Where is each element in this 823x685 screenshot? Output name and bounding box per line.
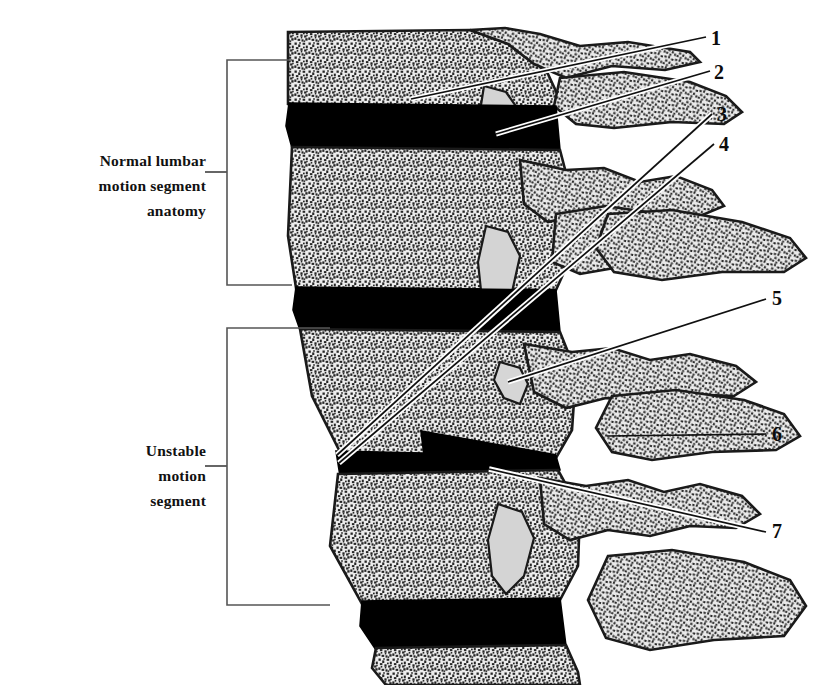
intervertebral-disc-bottom (360, 598, 566, 650)
callout-number-4: 4 (719, 134, 729, 154)
callout-number-3: 3 (717, 104, 727, 124)
spine-illustration (0, 0, 823, 685)
vertebral-body-bottom-partial (372, 645, 580, 685)
label-unstable-motion-segment: Unstable motion segment (10, 438, 206, 513)
spinous-process-bottom (588, 550, 806, 650)
callout-number-7: 7 (772, 521, 782, 541)
callout-number-5: 5 (772, 288, 782, 308)
callout-number-2: 2 (714, 62, 724, 82)
callout-number-1: 1 (711, 28, 721, 48)
bracket-normal-segment (205, 60, 292, 285)
callout-number-6: 6 (772, 424, 782, 444)
label-normal-lumbar-motion-segment-anatomy: Normal lumbar motion segment anatomy (10, 148, 206, 223)
spinous-process-unstable-upper (596, 390, 800, 460)
figure-canvas: Normal lumbar motion segment anatomy Uns… (0, 0, 823, 685)
